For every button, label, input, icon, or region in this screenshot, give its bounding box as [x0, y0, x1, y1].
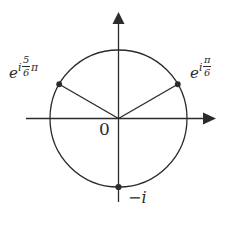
label-left-numerator: 5 [22, 55, 30, 65]
real-axis-arrowhead-icon [203, 113, 216, 125]
label-left-denominator: 6 [22, 67, 30, 77]
label-right-base: e [190, 64, 199, 82]
label-right-numerator: π [203, 55, 211, 65]
label-exp-i-pi-over-six: eiπ6 [190, 62, 212, 85]
label-right-exponent: iπ6 [199, 55, 212, 78]
label-exp-i-five-sixths-pi: ei56π [9, 62, 38, 85]
radius-line-pi-over-6 [119, 84, 178, 118]
label-right-denominator: 6 [203, 67, 211, 77]
label-left-fraction: 56 [22, 55, 30, 78]
argand-diagram-canvas [0, 0, 233, 226]
imaginary-axis-arrowhead-icon [113, 12, 125, 24]
label-left-imaginary-unit: i [18, 61, 21, 74]
point-marker-pi-over-6 [175, 81, 181, 87]
point-marker-five-pi-over-six [56, 81, 62, 87]
radius-line-five-pi-over-six [59, 84, 118, 118]
label-left-base: e [9, 64, 18, 82]
point-marker-minus-i [115, 184, 121, 190]
label-origin: 0 [99, 121, 110, 138]
complex-plane-figure: ei56π eiπ6 0 −i [0, 0, 233, 226]
label-right-imaginary-unit: i [199, 61, 202, 74]
label-left-pi-symbol: π [31, 61, 38, 74]
label-minus-i: −i [128, 190, 147, 206]
label-left-exponent: i56π [18, 55, 38, 78]
label-right-fraction: π6 [203, 55, 211, 78]
